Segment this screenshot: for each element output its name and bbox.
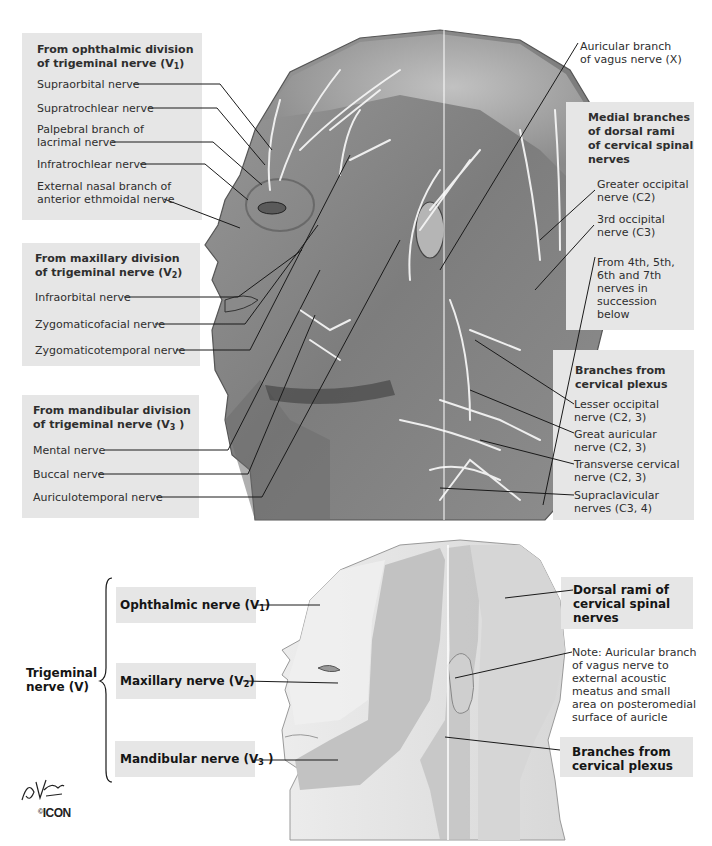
label-ophthalmic-nerve: Ophthalmic nerve (V1) bbox=[120, 598, 270, 616]
dissected-head-figure bbox=[205, 30, 612, 520]
lower-cervical-plexus-1: Branches from bbox=[572, 745, 671, 759]
label-infraorbital-nerve: Infraorbital nerve bbox=[35, 291, 131, 304]
dorsal-rami-heading-2: of dorsal rami bbox=[588, 125, 675, 138]
label-mandibular-nerve: Mandibular nerve (V3 ) bbox=[120, 752, 273, 770]
label-supraclavicular-2: nerves (C3, 4) bbox=[574, 502, 652, 515]
label-lesser-occipital-1: Lesser occipital bbox=[574, 398, 659, 411]
label-great-auricular-2: nerve (C2, 3) bbox=[574, 441, 646, 454]
label-lesser-occipital-2: nerve (C2, 3) bbox=[574, 411, 646, 424]
mandibular-heading-2: of trigeminal nerve (V3 ) bbox=[33, 418, 184, 434]
dorsal-rami-heading-3: of cervical spinal bbox=[588, 139, 693, 152]
icon-logo: ©ICON bbox=[38, 806, 71, 820]
label-maxillary-nerve: Maxillary nerve (V2) bbox=[120, 674, 255, 692]
label-transverse-cervical-1: Transverse cervical bbox=[574, 458, 680, 471]
maxillary-heading-2: of trigeminal nerve (V2) bbox=[35, 266, 182, 282]
label-third-occipital-1: 3rd occipital bbox=[597, 213, 665, 226]
netter-signature bbox=[18, 770, 68, 810]
label-infratrochlear-nerve: Infratrochlear nerve bbox=[37, 158, 147, 171]
label-palpebral-branch-1: Palpebral branch of bbox=[37, 123, 144, 136]
label-zygomaticofacial-nerve: Zygomaticofacial nerve bbox=[35, 318, 165, 331]
note-line-3: external acoustic bbox=[572, 672, 666, 685]
label-external-nasal-1: External nasal branch of bbox=[37, 180, 171, 193]
label-third-occipital-2: nerve (C3) bbox=[597, 226, 655, 239]
trigeminal-line-1: Trigeminal bbox=[26, 666, 97, 680]
label-vagus-2: of vagus nerve (X) bbox=[580, 53, 682, 66]
dermatome-head-figure bbox=[282, 540, 565, 840]
label-supratrochlear-nerve: Supratrochlear nerve bbox=[37, 102, 154, 115]
label-mental-nerve: Mental nerve bbox=[33, 444, 105, 457]
note-line-6: surface of auricle bbox=[572, 711, 667, 724]
brace bbox=[100, 578, 112, 782]
cervical-plexus-heading-2: cervical plexus bbox=[575, 378, 667, 391]
maxillary-heading-1: From maxillary division bbox=[35, 252, 180, 265]
dorsal-rami-heading-1: Medial branches bbox=[588, 111, 690, 124]
label-great-auricular-1: Great auricular bbox=[574, 428, 657, 441]
label-lower-nerves-2: 6th and 7th bbox=[597, 269, 661, 282]
label-lower-nerves-5: below bbox=[597, 308, 630, 321]
dorsal-rami-heading-4: nerves bbox=[588, 153, 630, 166]
label-vagus-1: Auricular branch bbox=[580, 40, 671, 53]
note-line-2: of vagus nerve to bbox=[572, 659, 669, 672]
signature-icon bbox=[18, 770, 68, 810]
lower-cervical-plexus-2: cervical plexus bbox=[572, 759, 673, 773]
note-line-1: Note: Auricular branch bbox=[572, 646, 696, 659]
note-line-4: meatus and small bbox=[572, 685, 670, 698]
cervical-plexus-heading-1: Branches from bbox=[575, 364, 665, 377]
label-auriculotemporal-nerve: Auriculotemporal nerve bbox=[33, 491, 163, 504]
label-palpebral-branch-2: lacrimal nerve bbox=[37, 136, 116, 149]
label-lower-nerves-4: succession bbox=[597, 295, 657, 308]
label-lower-nerves-1: From 4th, 5th, bbox=[597, 256, 675, 269]
label-transverse-cervical-2: nerve (C2, 3) bbox=[574, 471, 646, 484]
label-zygomaticotemporal-nerve: Zygomaticotemporal nerve bbox=[35, 344, 185, 357]
lower-dorsal-rami-3: nerves bbox=[573, 611, 619, 625]
ophthalmic-heading-2: of trigeminal nerve (V1) bbox=[37, 57, 184, 73]
label-external-nasal-2: anterior ethmoidal nerve bbox=[37, 193, 175, 206]
trigeminal-line-2: nerve (V) bbox=[26, 680, 89, 694]
label-lower-nerves-3: nerves in bbox=[597, 282, 648, 295]
lower-dorsal-rami-2: cervical spinal bbox=[573, 597, 670, 611]
publisher-logo-text: ICON bbox=[43, 806, 71, 820]
label-greater-occipital-1: Greater occipital bbox=[597, 178, 688, 191]
label-supraorbital-nerve: Supraorbital nerve bbox=[37, 78, 140, 91]
label-buccal-nerve: Buccal nerve bbox=[33, 468, 104, 481]
note-line-5: area on posteromedial bbox=[572, 698, 696, 711]
lower-dorsal-rami-1: Dorsal rami of bbox=[573, 583, 669, 597]
label-supraclavicular-1: Supraclavicular bbox=[574, 489, 659, 502]
label-greater-occipital-2: nerve (C2) bbox=[597, 191, 655, 204]
mandibular-heading-1: From mandibular division bbox=[33, 404, 191, 417]
ophthalmic-heading-1: From ophthalmic division bbox=[37, 43, 194, 56]
